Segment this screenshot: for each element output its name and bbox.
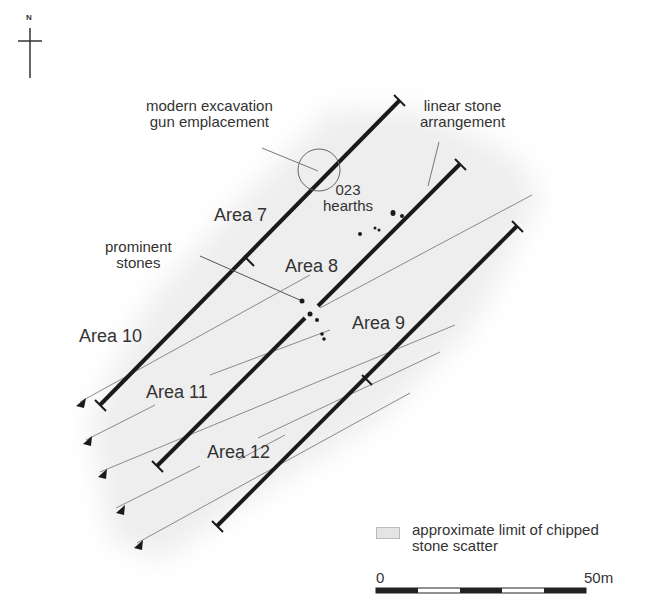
site-plan [0,0,654,606]
scatter-area [90,110,540,560]
linear-stone-label: linear stone arrangement [420,98,505,130]
area-9-label: Area 9 [352,314,405,333]
area-12-label: Area 12 [207,443,270,462]
area-10-label: Area 10 [79,327,142,346]
gun-emplacement-label: modern excavation gun emplacement [146,98,273,130]
hearths-label: 023 hearths [323,182,373,214]
prominent-stones-label: prominent stones [105,239,172,271]
scale-bar [376,588,586,593]
scale-start-label: 0 [376,570,384,586]
area-7-label: Area 7 [214,206,267,225]
scatter-legend-swatch [376,527,400,539]
area-8-label: Area 8 [285,257,338,276]
area-11-label: Area 11 [146,383,208,402]
legend-text: approximate limit of chipped stone scatt… [412,522,599,554]
scale-end-label: 50m [584,570,613,586]
north-label: N [26,14,32,22]
north-arrow-icon [18,28,42,78]
